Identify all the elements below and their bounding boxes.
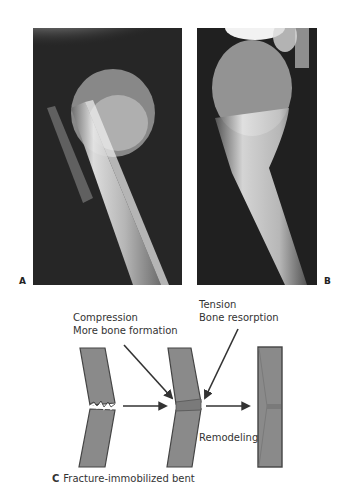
- panel-b-label: B: [324, 276, 331, 286]
- remodeling-diagram: Compression More bone formation Tension …: [0, 290, 351, 489]
- remodeling-label: Remodeling: [199, 431, 258, 444]
- compression-title: Compression: [73, 311, 178, 324]
- compression-subtitle: More bone formation: [73, 324, 178, 337]
- fractured-bone: [79, 348, 115, 467]
- tension-title: Tension: [199, 298, 279, 311]
- xray-panel-b: [197, 28, 317, 285]
- xray-panel-a: [33, 28, 182, 285]
- caption-text: Fracture-immobilized bent: [63, 473, 194, 484]
- tension-label: Tension Bone resorption: [199, 298, 279, 324]
- panel-a-label: A: [19, 276, 26, 286]
- healing-bone: [167, 348, 201, 467]
- xray-image-a: [33, 28, 182, 285]
- xray-image-b: [197, 28, 317, 285]
- tension-arrow: [205, 329, 238, 398]
- compression-label: Compression More bone formation: [73, 311, 178, 337]
- panel-c-caption: CFracture-immobilized bent: [52, 472, 195, 485]
- tension-subtitle: Bone resorption: [199, 311, 279, 324]
- panel-c-label: C: [52, 473, 59, 484]
- compression-arrow: [124, 345, 172, 398]
- remodeled-bone: [258, 347, 282, 467]
